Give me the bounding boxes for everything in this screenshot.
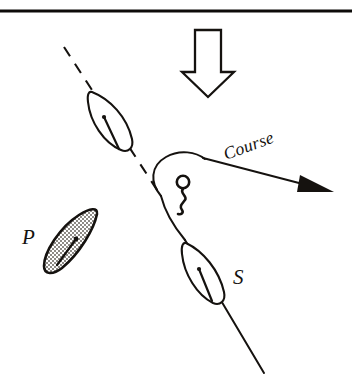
label-course: Course [221,127,277,164]
racing-mark-buoy [177,176,189,214]
boat-s [182,243,225,304]
course-arrowhead [297,175,334,192]
boat-upper [88,92,133,151]
boat-p [44,209,97,273]
label-port-boat: P [21,225,35,249]
mark-rounding-path-upper [153,152,205,196]
diagram-canvas: P S Course [0,0,352,384]
wind-direction-arrow [182,30,234,97]
label-starboard-boat: S [233,265,244,289]
sailing-rules-diagram: P S Course [0,0,352,384]
